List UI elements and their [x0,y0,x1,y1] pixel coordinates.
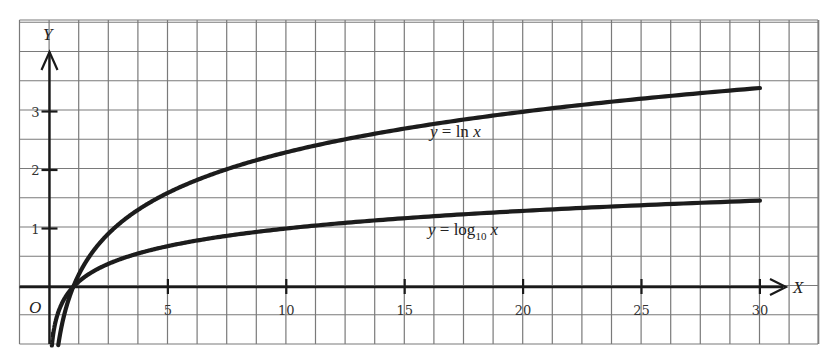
x-tick-label: 15 [396,303,413,318]
x-axis-label: X [792,278,804,297]
axes: Y X O [20,25,805,344]
x-tick-label: 25 [633,303,650,318]
y-tick-label: 1 [31,222,39,237]
grid [20,20,819,344]
log10-curve-label: y = log10x [426,220,498,242]
x-tick-label: 30 [752,303,769,318]
log10-curve [52,201,760,346]
origin-label: O [29,298,41,317]
y-tick-label: 3 [31,105,39,120]
ln-curve-label: y = ln x [428,122,481,141]
y-tick-label: 2 [31,163,39,178]
log-functions-chart: Y X O 51015202530123 y = ln x y = log10x [0,0,827,360]
x-tick-label: 5 [164,303,172,318]
y-axis-label: Y [43,25,54,44]
x-tick-label: 20 [515,303,532,318]
x-tick-label: 10 [278,303,295,318]
